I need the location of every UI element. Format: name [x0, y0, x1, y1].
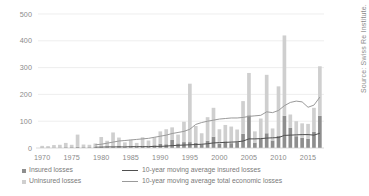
bar-uninsured [288, 115, 292, 128]
bar-insured [283, 116, 287, 148]
bar-insured [288, 128, 292, 148]
bar-uninsured [318, 66, 322, 116]
line-swatch-icon [122, 181, 138, 182]
bar-insured [306, 139, 310, 148]
y-axis-tick-label: 200 [8, 90, 32, 99]
bar-uninsured [40, 146, 44, 148]
bar-insured [206, 141, 210, 148]
bar-uninsured [70, 145, 74, 147]
source-note: Source: Swiss Re Institute. [360, 4, 367, 93]
line-swatch-icon [122, 170, 138, 171]
bar-series-group [40, 35, 321, 148]
bar-uninsured [265, 75, 269, 133]
bar-uninsured [111, 132, 115, 146]
legend-item-uninsured: Uninsured losses [22, 176, 81, 187]
legend-item-insured: Insured losses [22, 165, 81, 176]
square-swatch-icon [22, 180, 26, 184]
bar-uninsured [300, 123, 304, 137]
y-axis-tick-label: 500 [8, 10, 32, 19]
x-axis-tick-label: 1990 [147, 153, 173, 162]
bar-uninsured [58, 145, 62, 148]
bar-uninsured [312, 108, 316, 132]
x-axis-tick-label: 1985 [118, 153, 144, 162]
bar-insured [235, 142, 239, 148]
bar-uninsured [271, 128, 275, 140]
bar-uninsured [194, 126, 198, 143]
bar-uninsured [259, 119, 263, 139]
bar-uninsured [200, 133, 204, 144]
legend-label-ma-insured: 10-year moving average insured losses [142, 167, 261, 174]
y-axis-tick-label: 0 [8, 144, 32, 153]
bar-uninsured [247, 73, 251, 115]
bar-insured [247, 115, 251, 148]
square-swatch-icon [22, 169, 26, 173]
y-axis-tick-label: 400 [8, 36, 32, 45]
bar-uninsured [46, 146, 50, 147]
x-axis-tick-label: 2005 [236, 153, 262, 162]
bar-insured [170, 140, 174, 148]
gridlines [38, 14, 324, 121]
bar-uninsured [188, 84, 192, 142]
bar-uninsured [164, 129, 168, 144]
legend-item-ma-total: 10-year moving average total economic lo… [122, 176, 282, 187]
bar-uninsured [135, 143, 139, 147]
x-axis-tick-label: 2010 [266, 153, 292, 162]
x-axis-tick-label: 1995 [177, 153, 203, 162]
bar-insured [259, 139, 263, 148]
x-axis-tick-label: 1980 [88, 153, 114, 162]
bar-uninsured [117, 138, 121, 147]
legend-label-ma-total: 10-year moving average total economic lo… [142, 178, 282, 185]
bar-uninsured [306, 124, 310, 139]
y-axis-tick-label: 300 [8, 63, 32, 72]
natural-catastrophe-losses-chart: 0100200300400500 19701975198019851990199… [0, 0, 369, 196]
x-axis-tick-label: 1970 [29, 153, 55, 162]
bar-insured [194, 143, 198, 148]
bar-uninsured [153, 137, 157, 145]
legend-column-bars: Insured losses Uninsured losses [22, 165, 81, 187]
bar-uninsured [176, 135, 180, 144]
legend-column-lines: 10-year moving average insured losses 10… [122, 165, 282, 187]
bar-uninsured [283, 35, 287, 115]
bar-insured [265, 133, 269, 148]
bar-uninsured [212, 108, 216, 137]
y-axis-tick-label: 100 [8, 117, 32, 126]
bar-insured [318, 116, 322, 148]
bar-uninsured [99, 137, 103, 146]
bar-uninsured [123, 142, 127, 146]
bar-insured [229, 143, 233, 148]
bar-uninsured [229, 127, 233, 144]
bar-insured [200, 144, 204, 148]
bar-uninsured [129, 140, 133, 147]
bar-insured [294, 136, 298, 148]
bar-uninsured [253, 131, 257, 142]
bar-uninsured [158, 131, 162, 143]
x-axis-tick-label: 2000 [206, 153, 232, 162]
legend-label-uninsured: Uninsured losses [29, 178, 81, 185]
x-axis-tick-label: 2015 [295, 153, 321, 162]
x-axis-tick-label: 1975 [59, 153, 85, 162]
bar-uninsured [235, 130, 239, 143]
bar-insured [218, 144, 222, 148]
bar-uninsured [82, 145, 86, 148]
bar-uninsured [88, 145, 92, 147]
bar-uninsured [52, 145, 56, 147]
bar-uninsured [76, 135, 80, 147]
bar-uninsured [218, 129, 222, 143]
bar-insured [253, 143, 257, 148]
bar-insured [271, 140, 275, 148]
bar-uninsured [64, 143, 68, 147]
bar-uninsured [147, 140, 151, 146]
bar-uninsured [294, 121, 298, 136]
bar-insured [300, 138, 304, 148]
bar-uninsured [223, 125, 227, 141]
legend-label-insured: Insured losses [29, 167, 73, 174]
legend-item-ma-insured: 10-year moving average insured losses [122, 165, 282, 176]
